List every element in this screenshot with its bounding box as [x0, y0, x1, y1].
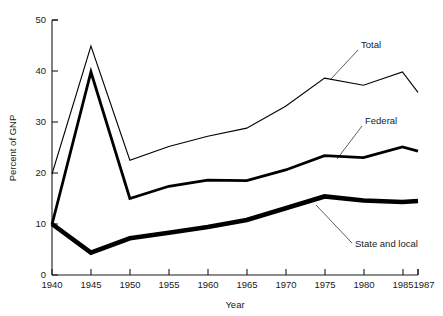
y-axis-title: Percent of GNP: [7, 115, 18, 182]
y-tick-label-20: 20: [35, 167, 46, 178]
x-tick-label-1940: 1940: [41, 279, 62, 290]
y-tick-label-30: 30: [35, 116, 46, 127]
x-tick-label-1950: 1950: [119, 279, 140, 290]
x-tick-label-1960: 1960: [197, 279, 218, 290]
series-line-total: [52, 46, 418, 174]
x-tick-label-1955: 1955: [158, 279, 179, 290]
x-tick-label-1975: 1975: [314, 279, 335, 290]
x-tick-label-1980: 1980: [353, 279, 374, 290]
x-tick-label-1970: 1970: [275, 279, 296, 290]
x-tick-label-1945: 1945: [80, 279, 101, 290]
y-tick-label-10: 10: [35, 218, 46, 229]
y-tick-marks: [52, 20, 58, 275]
x-tick-label-1985: 1985: [392, 279, 413, 290]
leader-line-state: [316, 205, 352, 243]
y-tick-label-50: 50: [35, 14, 46, 25]
series-label-total: Total: [361, 39, 381, 50]
y-tick-labels: 0 10 20 30 40 50: [35, 14, 46, 280]
x-tick-label-1965: 1965: [236, 279, 257, 290]
x-tick-labels: 1940 1945 1950 1955 1960 1965 1970 1975 …: [41, 279, 434, 290]
series-label-state-and-local: State and local: [355, 238, 418, 249]
y-tick-label-40: 40: [35, 65, 46, 76]
series-label-federal: Federal: [365, 115, 397, 126]
leader-line-federal: [337, 126, 362, 159]
line-chart: 0 10 20 30 40 50 1940 1945 1950 1955: [0, 0, 443, 316]
x-tick-marks: [52, 269, 418, 275]
x-tick-label-1987: 1987: [413, 279, 434, 290]
leader-line-total: [330, 50, 358, 80]
x-axis-title: Year: [225, 299, 244, 310]
chart-container: 0 10 20 30 40 50 1940 1945 1950 1955: [0, 0, 443, 316]
